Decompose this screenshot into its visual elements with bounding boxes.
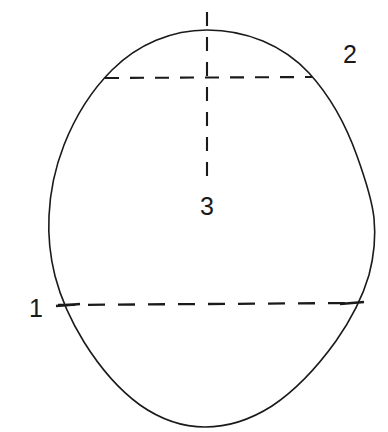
cranium-outline [49,30,375,427]
lower-horizontal-plane [58,303,352,305]
label-3: 3 [200,194,214,219]
figure-root: 1 2 3 [0,0,388,432]
lower-horizontal-plane-line [58,303,352,305]
upper-horizontal-plane-line [105,77,312,78]
cranium-outline-group [49,30,375,427]
upper-horizontal-plane [105,77,312,78]
label-1: 1 [29,296,43,321]
label-2: 2 [343,42,357,67]
cranial-diagram-svg [0,0,388,432]
